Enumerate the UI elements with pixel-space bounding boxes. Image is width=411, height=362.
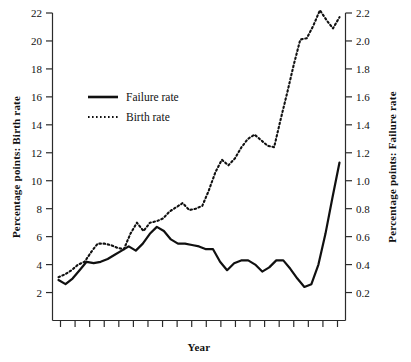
right-axis-title: Percentage points: Failure rate [386, 91, 398, 243]
legend-label-birth-rate: Birth rate [126, 111, 170, 123]
legend-label-failure-rate: Failure rate [126, 91, 179, 103]
right-tick-label: 0.2 [356, 287, 370, 299]
right-tick-label: 2.2 [356, 7, 370, 19]
left-tick-label: 12 [31, 147, 42, 159]
right-axis-ticks: 0.20.40.60.81.01.21.41.61.82.02.2 [346, 7, 371, 299]
x-axis-ticks [61, 321, 338, 328]
left-tick-label: 14 [31, 119, 43, 131]
chart-figure: 246810121416182022 0.20.40.60.81.01.21.4… [0, 0, 411, 362]
x-axis-title: Year [188, 341, 211, 353]
left-tick-label: 18 [31, 63, 43, 75]
left-tick-label: 20 [31, 35, 43, 47]
left-tick-label: 10 [31, 175, 43, 187]
right-tick-label: 0.8 [356, 203, 370, 215]
series-line-birth-rate [59, 10, 340, 277]
left-tick-label: 6 [37, 231, 43, 243]
left-tick-label: 22 [31, 7, 42, 19]
chart-legend: Failure rate Birth rate [88, 91, 179, 123]
axis-lines [53, 13, 346, 321]
left-tick-label: 2 [37, 287, 43, 299]
right-tick-label: 1.8 [356, 63, 370, 75]
right-tick-label: 1.4 [356, 119, 370, 131]
left-axis-title: Percentage points: Birth rate [10, 96, 22, 238]
left-tick-label: 8 [37, 203, 43, 215]
left-tick-label: 16 [31, 91, 43, 103]
right-tick-label: 2.0 [356, 35, 370, 47]
right-tick-label: 0.6 [356, 231, 370, 243]
left-tick-label: 4 [37, 259, 43, 271]
right-tick-label: 0.4 [356, 259, 370, 271]
right-tick-label: 1.0 [356, 175, 370, 187]
left-axis-ticks: 246810121416182022 [31, 7, 53, 299]
line-chart-canvas: 246810121416182022 0.20.40.60.81.01.21.4… [0, 0, 411, 362]
right-tick-label: 1.2 [356, 147, 370, 159]
series-line-failure-rate [59, 163, 340, 287]
right-tick-label: 1.6 [356, 91, 370, 103]
